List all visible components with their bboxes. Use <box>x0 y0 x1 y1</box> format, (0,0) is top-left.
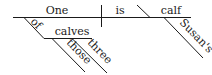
sentence-diagram: One is calf of calves those three Susan'… <box>0 0 212 75</box>
verb-word: is <box>115 4 125 17</box>
subject-word: One <box>46 4 69 17</box>
predicate-slash <box>137 5 150 18</box>
predicate-word: calf <box>161 4 182 17</box>
